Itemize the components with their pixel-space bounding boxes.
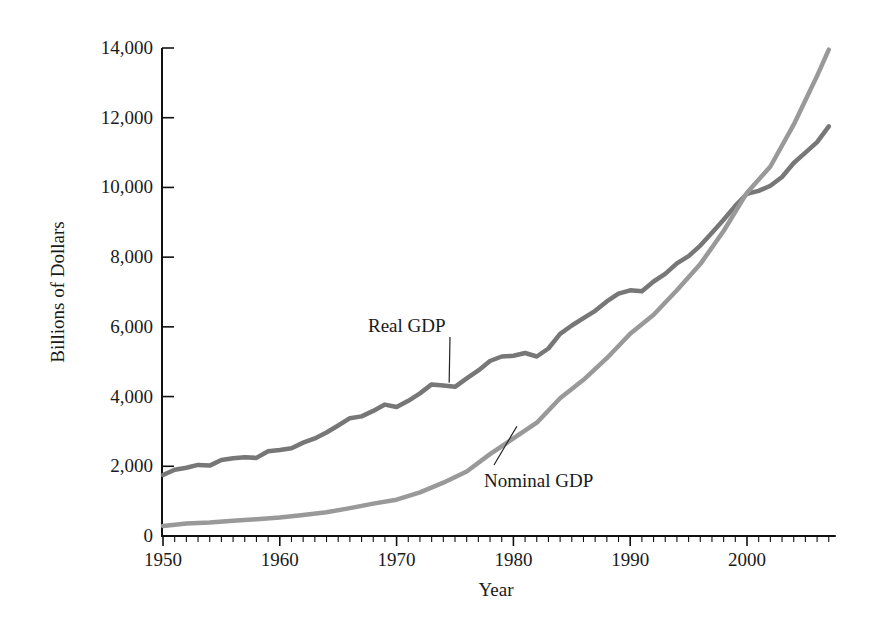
series-layer <box>163 50 829 526</box>
y-axis: 02,0004,0006,0008,00010,00012,00014,000 <box>101 37 174 546</box>
x-tick-label: 1990 <box>611 549 649 570</box>
y-tick-label: 2,000 <box>110 455 153 476</box>
nominal-gdp-label: Nominal GDP <box>484 470 593 491</box>
y-tick-label: 8,000 <box>110 246 153 267</box>
x-axis: 195019601970198019902000 <box>144 536 836 570</box>
y-tick-label: 10,000 <box>101 176 153 197</box>
y-tick-label: 4,000 <box>110 386 153 407</box>
y-tick-label: 0 <box>144 525 154 546</box>
gdp-line-chart: 02,0004,0006,0008,00010,00012,00014,000 … <box>0 0 873 629</box>
x-tick-label: 2000 <box>728 549 766 570</box>
x-axis-title: Year <box>478 579 514 600</box>
annotation-leader-line <box>449 337 450 383</box>
y-axis-title: Billions of Dollars <box>47 221 68 362</box>
x-tick-label: 1970 <box>378 549 416 570</box>
y-tick-label: 12,000 <box>101 107 153 128</box>
y-tick-label: 6,000 <box>110 316 153 337</box>
real-gdp-line <box>163 126 829 475</box>
x-tick-label: 1960 <box>261 549 299 570</box>
x-tick-label: 1980 <box>494 549 532 570</box>
y-tick-label: 14,000 <box>101 37 153 58</box>
x-tick-label: 1950 <box>144 549 182 570</box>
real-gdp-label: Real GDP <box>368 315 446 336</box>
annotation-leader-line <box>494 426 517 465</box>
